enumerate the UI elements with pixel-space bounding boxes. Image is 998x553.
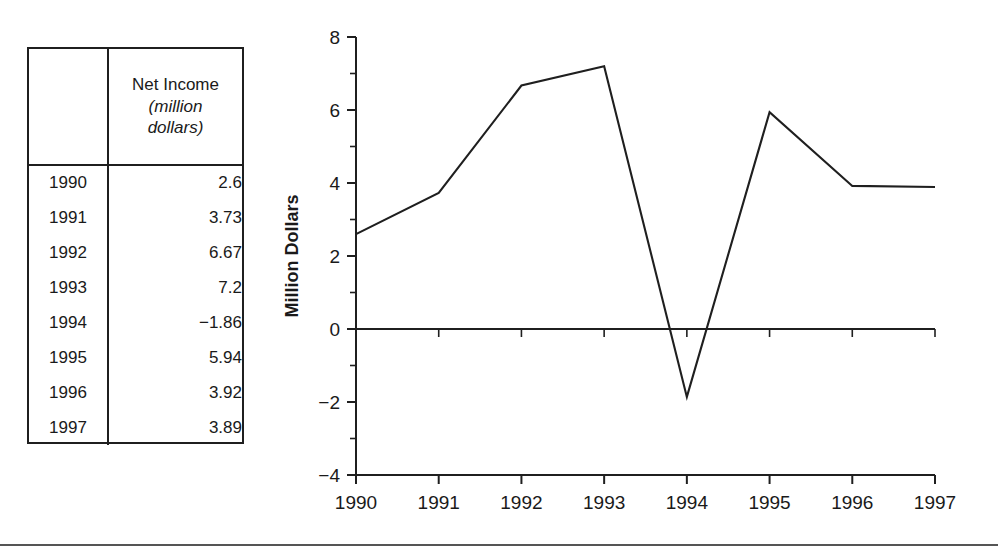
table-row: 1994−1.86 (29, 305, 242, 340)
cell-year: 1995 (29, 340, 108, 375)
table: Net Income (million dollars) 19902.61991… (29, 49, 242, 445)
table-header-net-income: Net Income (million dollars) (108, 49, 242, 165)
cell-net-income: 7.2 (108, 270, 242, 305)
net-income-line-chart: 86420−2−4 199019911992199319941995199619… (272, 8, 984, 520)
table-row: 19937.2 (29, 270, 242, 305)
y-tick-label: −4 (318, 465, 340, 486)
x-tick-label: 1997 (914, 492, 956, 513)
cell-net-income: 3.89 (108, 410, 242, 445)
cell-year: 1990 (29, 165, 108, 200)
y-tick-label: 4 (329, 173, 340, 194)
y-tick-label: 8 (329, 27, 340, 48)
cell-year: 1993 (29, 270, 108, 305)
y-axis: 86420−2−4 (318, 27, 356, 486)
x-tick-label: 1991 (418, 492, 460, 513)
y-tick-label: 6 (329, 100, 340, 121)
x-axis: 19901991199219931994199519961997 (335, 475, 956, 513)
cell-net-income: 6.67 (108, 235, 242, 270)
cell-year: 1991 (29, 200, 108, 235)
zero-reference-line (356, 329, 935, 337)
table-row: 19926.67 (29, 235, 242, 270)
cell-net-income: 5.94 (108, 340, 242, 375)
chart-svg: 86420−2−4 199019911992199319941995199619… (272, 8, 984, 520)
table-header-row: Net Income (million dollars) (29, 49, 242, 165)
header-title: Net Income (132, 75, 219, 94)
cell-net-income: 3.73 (108, 200, 242, 235)
cell-year: 1996 (29, 375, 108, 410)
table-body: 19902.619913.7319926.6719937.21994−1.861… (29, 165, 242, 445)
cell-net-income: 3.92 (108, 375, 242, 410)
data-series-net-income (356, 66, 935, 397)
x-tick-label: 1994 (666, 492, 709, 513)
table-row: 19963.92 (29, 375, 242, 410)
cell-year: 1994 (29, 305, 108, 340)
x-tick-label: 1995 (748, 492, 790, 513)
y-tick-label: 0 (329, 319, 340, 340)
table-row: 19902.6 (29, 165, 242, 200)
x-tick-label: 1990 (335, 492, 377, 513)
table-row: 19955.94 (29, 340, 242, 375)
cell-net-income: 2.6 (108, 165, 242, 200)
header-subtitle-line1: (million (109, 96, 242, 118)
y-axis-title: Million Dollars (282, 194, 302, 317)
bottom-divider (0, 544, 998, 546)
cell-net-income: −1.86 (108, 305, 242, 340)
x-tick-label: 1992 (500, 492, 542, 513)
y-tick-label: −2 (318, 392, 340, 413)
y-axis-title-text: Million Dollars (282, 194, 302, 317)
net-income-table: Net Income (million dollars) 19902.61991… (27, 47, 244, 444)
x-tick-label: 1996 (831, 492, 873, 513)
x-tick-label: 1993 (583, 492, 625, 513)
y-tick-label: 2 (329, 246, 340, 267)
table-header-corner (29, 49, 108, 165)
header-subtitle-line2: dollars) (109, 117, 242, 139)
series-line-net-income (356, 66, 935, 397)
table-row: 19973.89 (29, 410, 242, 445)
table-row: 19913.73 (29, 200, 242, 235)
cell-year: 1997 (29, 410, 108, 445)
cell-year: 1992 (29, 235, 108, 270)
